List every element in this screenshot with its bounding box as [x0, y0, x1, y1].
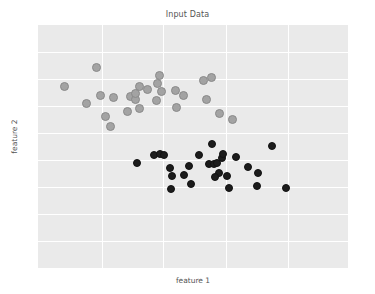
data-point — [208, 140, 216, 148]
data-point — [60, 82, 69, 91]
data-point — [106, 122, 115, 131]
y-axis-label: feature 2 — [10, 97, 19, 177]
data-point — [211, 173, 219, 181]
gridline-horizontal-7 — [38, 241, 348, 242]
data-point — [168, 172, 176, 180]
chart-title: Input Data — [0, 10, 375, 19]
data-point — [96, 91, 105, 100]
data-point — [268, 142, 276, 150]
data-point — [82, 99, 91, 108]
data-point — [92, 63, 101, 72]
data-point — [195, 151, 203, 159]
data-point — [133, 159, 141, 167]
data-point — [152, 96, 161, 105]
data-point — [153, 79, 162, 88]
gridline-horizontal-0 — [38, 52, 348, 53]
data-point — [160, 151, 168, 159]
chart-figure: Input Data feature 1 feature 2 — [0, 0, 375, 294]
data-point — [179, 91, 188, 100]
data-point — [157, 87, 166, 96]
plot-area — [38, 25, 348, 268]
data-point — [123, 107, 132, 116]
data-point — [135, 104, 144, 113]
data-point — [253, 182, 261, 190]
gridline-horizontal-1 — [38, 79, 348, 80]
data-point — [254, 169, 262, 177]
gridline-vertical-3 — [288, 25, 289, 268]
data-point — [207, 73, 216, 82]
data-point — [185, 162, 193, 170]
data-point — [202, 95, 211, 104]
gridline-horizontal-3 — [38, 133, 348, 134]
data-point — [228, 115, 237, 124]
data-point — [172, 103, 181, 112]
data-point — [223, 172, 231, 180]
data-point — [167, 185, 175, 193]
data-point — [180, 171, 188, 179]
data-point — [101, 112, 110, 121]
data-point — [225, 184, 233, 192]
gridline-vertical-1 — [163, 25, 164, 268]
data-point — [187, 180, 195, 188]
gridline-horizontal-6 — [38, 214, 348, 215]
gridline-vertical-0 — [102, 25, 103, 268]
gridline-vertical-2 — [226, 25, 227, 268]
data-point — [244, 163, 252, 171]
data-point — [109, 93, 118, 102]
gridline-horizontal-4 — [38, 160, 348, 161]
x-axis-label: feature 1 — [38, 276, 348, 285]
data-point — [143, 85, 152, 94]
data-point — [215, 109, 224, 118]
